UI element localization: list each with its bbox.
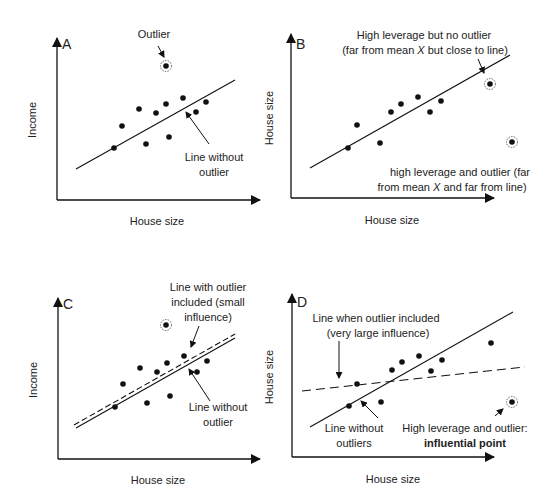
- panel-letter: A: [62, 36, 72, 52]
- y-axis-label: Income: [27, 362, 39, 398]
- solid-line-arrow: [361, 401, 378, 418]
- panel-a: A Income House size Outlier Line without…: [26, 28, 260, 227]
- solid-line-label-2: outlier: [203, 416, 233, 428]
- figure-canvas: A Income House size Outlier Line without…: [0, 0, 555, 495]
- outlier-point: [161, 320, 172, 331]
- line-label-arrow: [186, 112, 209, 144]
- high-leverage-label: High leverage but no outlier: [357, 29, 492, 41]
- high-leverage-point: [485, 79, 496, 90]
- x-axis-label: House size: [366, 473, 420, 485]
- regression-line-without-outlier: [76, 338, 235, 428]
- line-label: Line without: [185, 151, 244, 163]
- panel-c: C Income House size Line with outlier in…: [27, 281, 260, 486]
- influential-point: [507, 397, 518, 408]
- panel-letter: B: [296, 36, 305, 52]
- outlier-point: [161, 61, 172, 72]
- x-axis-label: House size: [365, 214, 419, 226]
- dashed-line-label-2: included (small: [171, 296, 244, 308]
- y-axis-label: House size: [263, 350, 275, 404]
- outlier-arrow: [158, 46, 164, 57]
- panel-letter: D: [297, 294, 307, 310]
- dashed-line-label: Line when outlier included: [312, 312, 439, 324]
- solid-line-label-2: outliers: [336, 437, 372, 449]
- panel-d: D House size House size Line when outlie…: [263, 294, 528, 485]
- influential-point-label: High leverage and outlier:: [402, 422, 527, 434]
- data-points: [345, 94, 444, 151]
- dashed-line-label: Line with outlier: [170, 281, 247, 293]
- y-axis-label: House size: [263, 91, 275, 145]
- regression-line: [310, 55, 510, 168]
- high-leverage-label-2: (far from mean X but close to line): [342, 44, 508, 56]
- x-axis-label: House size: [130, 215, 184, 227]
- dashed-line-arrow: [191, 326, 199, 347]
- panel-b: B House size House size High leverage bu…: [263, 29, 530, 226]
- dashed-line-label-2: (very large influence): [327, 327, 430, 339]
- outlier-label: Outlier: [138, 28, 171, 40]
- solid-line-label: Line without: [325, 422, 384, 434]
- line-label-2: outlier: [199, 166, 229, 178]
- outlier-label: high leverage and outlier (far: [390, 166, 530, 178]
- high-leverage-outlier-point: [507, 137, 518, 148]
- x-axis-label: House size: [131, 474, 185, 486]
- data-points: [346, 340, 494, 409]
- dashed-line-label-3: influence): [184, 311, 232, 323]
- outlier-label-2: from mean X and far from line): [377, 181, 526, 193]
- solid-line-label: Line without: [189, 401, 248, 413]
- influential-point-label-2: influential point: [424, 437, 506, 449]
- y-axis-label: Income: [26, 102, 38, 138]
- panel-letter: C: [63, 296, 73, 312]
- influential-point-arrow: [495, 409, 503, 416]
- regression-line-with-outlier: [302, 367, 525, 391]
- solid-line-arrow: [189, 369, 210, 401]
